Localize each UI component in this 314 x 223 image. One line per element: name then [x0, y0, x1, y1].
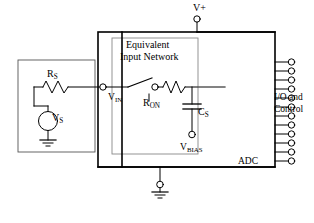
label-adc: ADC — [238, 157, 258, 167]
v-plus-terminal — [194, 16, 200, 22]
label-vbias-main: V — [180, 142, 187, 152]
label-cs-sub: S — [205, 111, 209, 119]
label-equivalent-line1: Equivalent — [126, 40, 169, 50]
label-v-bias: VBIAS — [180, 143, 202, 154]
rs-zigzag — [43, 81, 68, 93]
label-rs-main: R — [47, 68, 54, 79]
label-v-plus: V+ — [193, 3, 206, 13]
label-vs-sub: S — [59, 117, 63, 125]
label-cs-main: C — [198, 106, 205, 117]
label-io-line1: I/O and — [274, 93, 303, 103]
v-bias-terminal — [189, 131, 196, 138]
label-vbias-sub: BIAS — [187, 146, 203, 153]
label-voltage-source-vs: VS — [52, 113, 63, 125]
schematic-canvas — [0, 0, 314, 223]
label-capacitor-cs: CS — [198, 107, 209, 119]
label-ron-main: R — [143, 97, 150, 108]
label-ron-sub: ON — [150, 102, 160, 110]
label-equivalent-line2: Input Network — [120, 52, 179, 62]
label-resistor-rs: RS — [47, 69, 58, 81]
switch-blade — [128, 78, 152, 87]
switch-right-node — [152, 84, 158, 90]
label-rs-sub: S — [54, 73, 58, 81]
label-vin-main: V — [108, 92, 115, 102]
label-resistor-ron: RON — [143, 98, 160, 110]
label-io-line2: Control — [274, 105, 303, 115]
label-v-in: VIN — [108, 93, 122, 104]
v-in-node — [100, 84, 106, 90]
circuit-diagram-figure: V+ Equivalent Input Network RS VIN RON C… — [0, 0, 314, 223]
label-vin-sub: IN — [115, 96, 122, 103]
ron-zigzag — [163, 81, 185, 93]
ground-terminal — [157, 181, 164, 188]
